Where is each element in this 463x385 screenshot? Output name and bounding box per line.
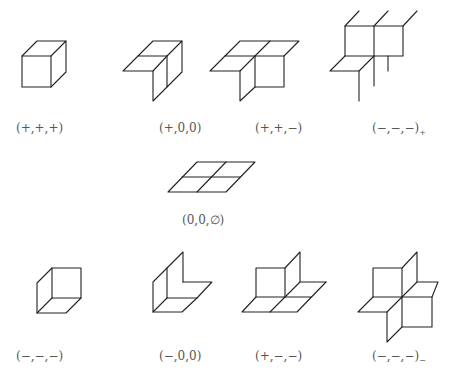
figure-plus-plus-minus bbox=[210, 41, 299, 101]
label-fig5: (0,0,∅) bbox=[182, 213, 224, 229]
label-fig1: (+,+,+) bbox=[16, 121, 63, 137]
label-fig2: (+,0,0) bbox=[159, 121, 201, 137]
label-fig9: (−,−,−)− bbox=[372, 349, 426, 365]
diagram-canvas bbox=[0, 0, 463, 385]
figure-plus-minus-minus bbox=[242, 252, 326, 312]
figure-minus-minus-minus-plus bbox=[330, 11, 417, 101]
label-fig8: (+,−,−) bbox=[255, 349, 302, 365]
figure-zero-zero-empty bbox=[168, 162, 255, 192]
label-fig6: (−,−,−) bbox=[16, 349, 63, 365]
figure-minus-minus-minus-minus bbox=[358, 252, 438, 342]
figure-cube-plus-plus-plus bbox=[22, 41, 66, 87]
figure-plus-zero-zero bbox=[123, 41, 182, 101]
label-fig3: (+,+,−) bbox=[255, 121, 302, 137]
label-fig4: (−,−,−)+ bbox=[372, 121, 426, 137]
figure-minus-zero-zero bbox=[153, 252, 212, 312]
label-fig7: (−,0,0) bbox=[159, 349, 201, 365]
figure-minus-minus-minus bbox=[37, 268, 81, 313]
